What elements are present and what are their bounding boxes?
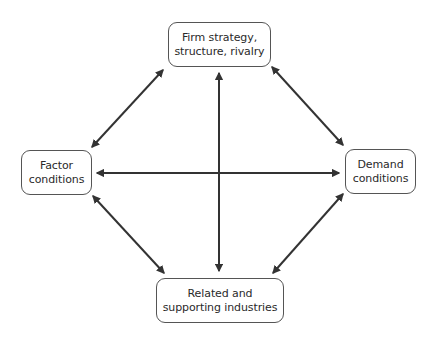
arrow-right-bottom (273, 194, 343, 273)
node-firm-strategy: Firm strategy, structure, rivalry (168, 22, 271, 67)
node-label-line: Demand (353, 158, 409, 172)
node-label-line: Factor (29, 159, 85, 173)
node-label-line: Related and (163, 287, 278, 301)
node-label-line: conditions (29, 173, 85, 187)
arrow-left-bottom (93, 196, 164, 273)
node-label-line: conditions (353, 172, 409, 186)
node-factor-conditions: Factor conditions (21, 150, 92, 195)
node-demand-conditions: Demand conditions (345, 149, 416, 194)
node-label-line: structure, rivalry (174, 45, 264, 59)
node-label-line: supporting industries (163, 301, 278, 315)
node-label-line: Firm strategy, (174, 31, 264, 45)
porter-diamond-diagram: Firm strategy, structure, rivalry Factor… (0, 0, 434, 340)
node-related-supporting-industries: Related and supporting industries (156, 278, 284, 323)
arrow-top-left (92, 70, 163, 147)
arrow-top-right (272, 67, 343, 145)
